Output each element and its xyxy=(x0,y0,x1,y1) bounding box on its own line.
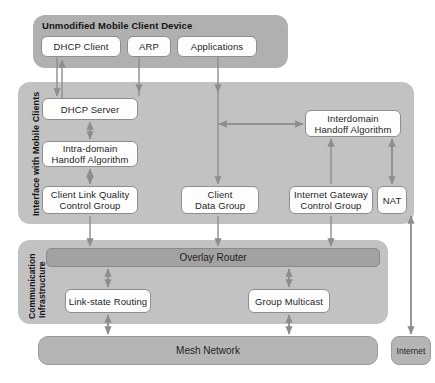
nat-label: NAT xyxy=(383,195,402,206)
link-state-routing-box[interactable]: Link-state Routing xyxy=(65,289,151,313)
intra-domain-handoff-algorithm-box[interactable]: Intra-domain Handoff Algorithm xyxy=(42,141,138,167)
link-state-routing-label: Link-state Routing xyxy=(69,296,147,307)
bottom-panel-vertical-label-line2: Infrastructure xyxy=(37,261,47,318)
internet-gateway-line2: Control Group xyxy=(301,200,362,211)
overlay-router-bar[interactable]: Overlay Router xyxy=(46,248,380,267)
group-multicast-label: Group Multicast xyxy=(255,296,323,307)
internet-box[interactable]: Internet xyxy=(391,336,431,365)
applications-box[interactable]: Applications xyxy=(177,36,257,57)
client-data-group-box[interactable]: Client Data Group xyxy=(181,186,259,214)
internet-gateway-control-group-box[interactable]: Internet Gateway Control Group xyxy=(289,186,373,214)
arp-box[interactable]: ARP xyxy=(127,36,171,57)
intra-domain-handoff-line2: Handoff Algorithm xyxy=(51,154,128,165)
client-link-quality-line1: Client Link Quality xyxy=(51,189,129,200)
applications-label: Applications xyxy=(191,41,243,52)
dhcp-client-box[interactable]: DHCP Client xyxy=(41,36,121,57)
diagram-canvas: Unmodified Mobile Client Device DHCP Cli… xyxy=(0,0,435,383)
interdomain-handoff-algorithm-box[interactable]: Interdomain Handoff Algorithm xyxy=(305,110,401,137)
interdomain-handoff-line2: Handoff Algorithm xyxy=(314,124,391,135)
internet-label: Internet xyxy=(397,346,426,356)
client-link-quality-control-group-box[interactable]: Client Link Quality Control Group xyxy=(42,186,138,214)
group-multicast-box[interactable]: Group Multicast xyxy=(248,289,330,313)
internet-gateway-line1: Internet Gateway xyxy=(294,189,368,200)
middle-panel-vertical-label: Interface with Mobile Clients xyxy=(31,92,41,216)
intra-domain-handoff-line1: Intra-domain xyxy=(63,143,118,154)
client-link-quality-line2: Control Group xyxy=(60,200,121,211)
overlay-router-label: Overlay Router xyxy=(179,252,246,263)
top-panel-title: Unmodified Mobile Client Device xyxy=(42,20,192,31)
client-data-group-line1: Client xyxy=(208,189,233,200)
bottom-panel-vertical-label-line1: Communication xyxy=(27,253,37,319)
client-data-group-line2: Data Group xyxy=(195,200,245,211)
dhcp-server-label: DHCP Server xyxy=(61,104,119,115)
nat-box[interactable]: NAT xyxy=(377,186,407,214)
arp-label: ARP xyxy=(139,41,159,52)
mesh-network-label: Mesh Network xyxy=(176,345,240,356)
mesh-network-box[interactable]: Mesh Network xyxy=(38,336,378,365)
interdomain-handoff-line1: Interdomain xyxy=(327,113,378,124)
dhcp-client-label: DHCP Client xyxy=(54,41,109,52)
dhcp-server-box[interactable]: DHCP Server xyxy=(42,98,138,120)
